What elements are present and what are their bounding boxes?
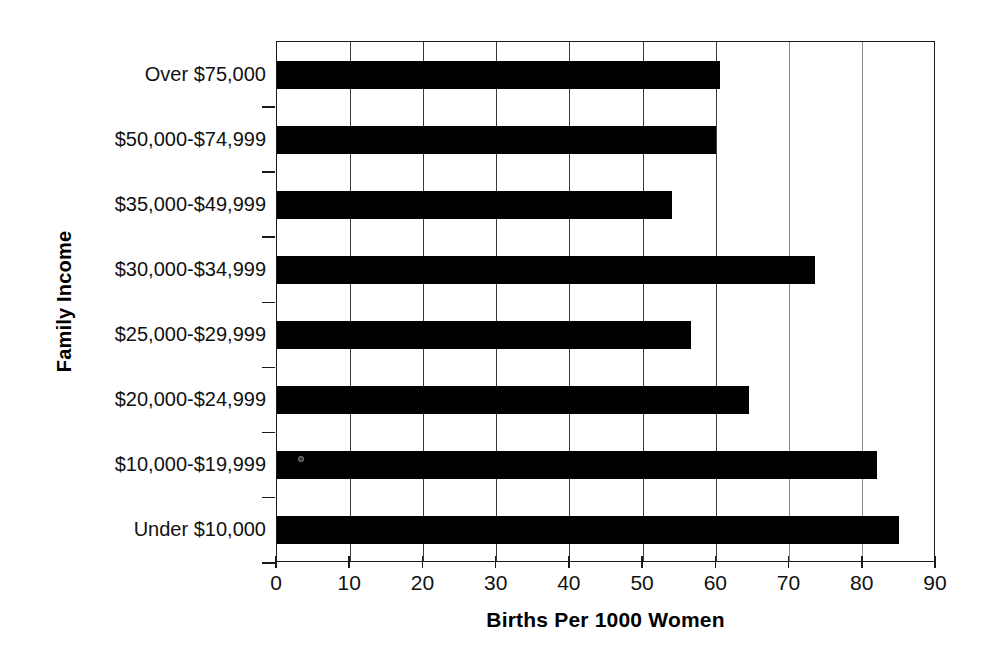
x-tick-label: 30 [484,571,507,595]
gridline-10 [350,42,351,561]
y-tick-mark [262,562,275,564]
y-tick-mark [262,106,275,108]
gridline-70 [789,42,790,561]
x-tick-label: 0 [270,571,282,595]
gridline-30 [496,42,497,561]
plot-area [276,41,935,562]
x-tick-label: 60 [704,571,727,595]
y-tick-mark [262,432,275,434]
bar [277,451,877,479]
x-axis-ticks: 0102030405060708090 [276,562,935,610]
y-axis-label: $30,000-$34,999 [60,257,266,280]
bar [277,191,672,219]
bar [277,321,691,349]
x-tick-label: 50 [630,571,653,595]
gridline-40 [569,42,570,561]
x-tick-label: 40 [557,571,580,595]
x-tick-mark [715,556,717,568]
x-tick-mark [788,556,790,568]
y-axis-label: $20,000-$24,999 [60,388,266,411]
y-tick-mark [262,171,275,173]
gridline-50 [643,42,644,561]
x-tick-mark [495,556,497,568]
y-tick-mark [262,236,275,238]
y-axis-label: $35,000-$49,999 [60,192,266,215]
bar [277,126,716,154]
y-axis-label: $50,000-$74,999 [60,127,266,150]
x-tick-label: 90 [923,571,946,595]
y-axis-label: Over $75,000 [60,62,266,85]
y-axis-label: $25,000-$29,999 [60,323,266,346]
gridline-20 [423,42,424,561]
x-axis-title: Births Per 1000 Women [276,608,935,632]
y-tick-mark [262,367,275,369]
x-tick-label: 80 [850,571,873,595]
x-tick-label: 20 [411,571,434,595]
gridline-80 [862,42,863,561]
x-tick-label: 10 [338,571,361,595]
bar [277,61,720,89]
x-tick-mark [348,556,350,568]
x-tick-mark [422,556,424,568]
y-axis-category-labels: Over $75,000$50,000-$74,999$35,000-$49,9… [60,41,266,562]
chart-page: Family Income Over $75,000$50,000-$74,99… [0,0,996,666]
x-tick-mark [861,556,863,568]
y-tick-mark [262,302,275,304]
gridline-60 [716,42,717,561]
bar [277,386,749,414]
scan-artifact-speck [299,457,303,461]
bar [277,256,815,284]
x-tick-mark [934,556,936,568]
x-tick-mark [275,556,277,568]
y-axis-label: Under $10,000 [60,518,266,541]
x-tick-mark [568,556,570,568]
x-tick-label: 70 [777,571,800,595]
bar [277,516,899,544]
y-tick-mark [262,497,275,499]
x-tick-mark [641,556,643,568]
y-axis-label: $10,000-$19,999 [60,453,266,476]
